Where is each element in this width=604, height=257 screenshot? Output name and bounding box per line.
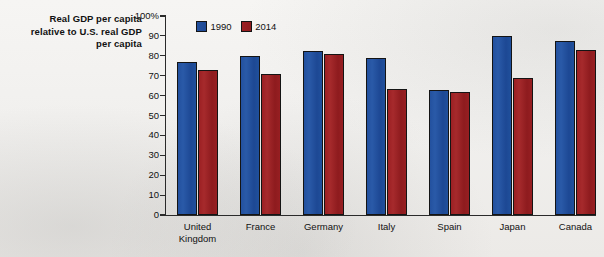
- bar-group-united-kingdom: [177, 16, 218, 215]
- y-axis-label-30: 30: [118, 150, 159, 160]
- bar-group-france: [240, 16, 281, 215]
- x-axis-label-canada: Canada: [533, 221, 604, 233]
- y-axis-label-60: 60: [118, 91, 159, 101]
- y-axis-label-20: 20: [118, 170, 159, 180]
- x-axis-label-line: Kingdom: [155, 233, 241, 245]
- bar-group-spain: [429, 16, 470, 215]
- bar-group-japan: [492, 16, 533, 215]
- y-axis-label-90: 90: [118, 31, 159, 41]
- y-axis-label-40: 40: [118, 130, 159, 140]
- plot-area: [166, 16, 596, 215]
- bar-canada-2014: [576, 50, 596, 215]
- bar-germany-2014: [324, 54, 344, 215]
- x-axis-label-line: Canada: [533, 221, 604, 233]
- y-axis-label-10: 10: [118, 190, 159, 200]
- y-axis-label-0: 0: [118, 210, 159, 220]
- bar-italy-2014: [387, 89, 407, 215]
- bar-japan-1990: [492, 36, 512, 215]
- y-axis-label-50: 50: [118, 111, 159, 121]
- bar-group-canada: [555, 16, 596, 215]
- bar-italy-1990: [366, 58, 386, 215]
- x-axis-line: [165, 215, 596, 216]
- bar-canada-1990: [555, 41, 575, 215]
- bar-united-kingdom-2014: [198, 70, 218, 215]
- y-axis-label-80: 80: [118, 51, 159, 61]
- bar-united-kingdom-1990: [177, 62, 197, 215]
- bar-france-1990: [240, 56, 260, 215]
- bar-group-italy: [366, 16, 407, 215]
- y-axis-label-100: 100%: [118, 11, 159, 21]
- y-axis-label-70: 70: [118, 71, 159, 81]
- bar-germany-1990: [303, 51, 323, 215]
- bar-spain-1990: [429, 90, 449, 215]
- bar-japan-2014: [513, 78, 533, 215]
- bar-spain-2014: [450, 92, 470, 215]
- bar-france-2014: [261, 74, 281, 215]
- bar-chart-figure: Real GDP per capita relative to U.S. rea…: [0, 0, 604, 257]
- bar-group-germany: [303, 16, 344, 215]
